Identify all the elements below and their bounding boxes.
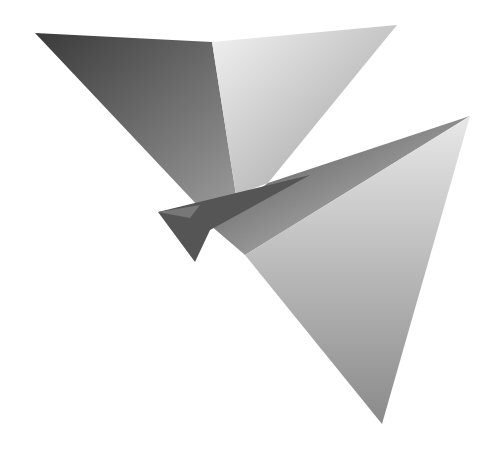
origami-butterfly-photo [0,0,498,454]
upper-left-wing [35,33,236,208]
